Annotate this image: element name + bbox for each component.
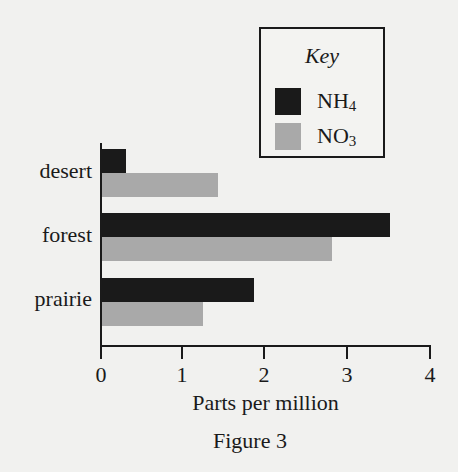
x-tick-1 xyxy=(181,345,183,359)
bar-forest-nh4 xyxy=(101,213,390,237)
x-axis xyxy=(100,345,431,347)
y-axis xyxy=(100,143,102,348)
x-tick-label-1: 1 xyxy=(167,362,197,388)
legend-swatch-no3 xyxy=(275,123,301,150)
x-tick-0 xyxy=(100,345,102,359)
bar-desert-nh4 xyxy=(101,149,126,173)
x-tick-4 xyxy=(429,345,431,359)
x-tick-label-3: 3 xyxy=(332,362,362,388)
bar-prairie-no3 xyxy=(101,302,203,326)
x-tick-label-0: 0 xyxy=(86,362,116,388)
bar-forest-no3 xyxy=(101,237,332,261)
legend-label-no3: NO3 xyxy=(317,123,356,150)
bar-chart: Key NH4 NO3 desert forest prairie 0 1 2 … xyxy=(0,0,458,472)
legend-title: Key xyxy=(261,43,383,69)
figure-caption: Figure 3 xyxy=(100,428,400,454)
category-label-desert: desert xyxy=(39,158,92,184)
legend-item-nh4: NH4 xyxy=(275,87,356,115)
x-axis-label: Parts per million xyxy=(100,390,431,416)
category-label-prairie: prairie xyxy=(35,286,92,312)
legend-swatch-nh4 xyxy=(275,88,301,115)
x-tick-label-2: 2 xyxy=(249,362,279,388)
legend: Key NH4 NO3 xyxy=(259,27,385,158)
category-label-forest: forest xyxy=(42,222,92,248)
legend-item-no3: NO3 xyxy=(275,122,356,150)
legend-label-nh4: NH4 xyxy=(317,88,356,115)
x-tick-2 xyxy=(263,345,265,359)
x-tick-label-4: 4 xyxy=(415,362,445,388)
bar-desert-no3 xyxy=(101,173,218,197)
bar-prairie-nh4 xyxy=(101,278,254,302)
x-tick-3 xyxy=(346,345,348,359)
